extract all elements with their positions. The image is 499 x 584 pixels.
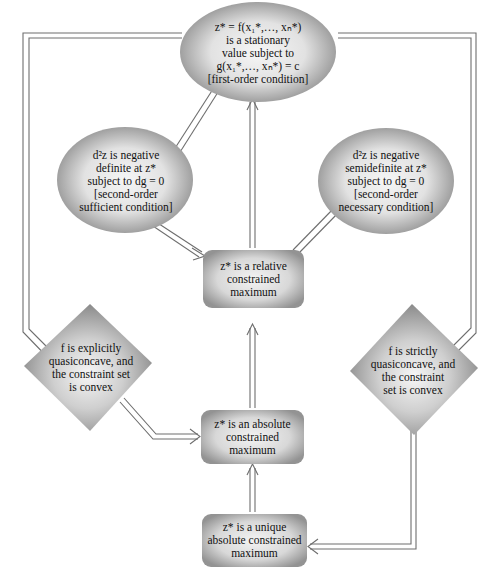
node-necessary-line-4: [second-order [354,188,418,201]
node-relative-max-line-3: maximum [230,286,277,299]
node-sufficient-line-4: [second-order [94,188,158,201]
node-sufficient-line-2: definite at z* [96,162,156,175]
node-absolute-max: z* is an absolute constrained maximum [201,411,304,463]
node-explicit-quasi-line-3: the constraint set [52,368,130,381]
node-absolute-max-line-2: constrained [226,431,279,444]
node-stationary-line-3: value subject to [222,47,294,60]
node-explicit-quasi-line-1: f is explicitly [61,342,122,355]
node-relative-max-line-2: constrained [227,273,280,286]
connector-absolute-to-relative [247,324,258,408]
node-sufficient: d²z is negative definite at z* subject t… [67,145,185,217]
node-explicit-quasi-line-2: quasiconcave, and [49,355,133,368]
node-strict-quasi-line-3: the constraint [382,371,444,384]
node-unique-max-line-1: z* is a unique [223,521,287,534]
connector-unique-to-absolute [247,464,258,512]
node-strict-quasi: f is strictly quasiconcave, and the cons… [357,343,469,399]
node-necessary-line-5: necessary condition] [339,201,434,214]
connector-relative-to-stationary [247,99,258,248]
node-sufficient-line-1: d²z is negative [93,149,160,162]
node-sufficient-line-5: sufficient condition] [79,201,172,214]
node-stationary-line-2: is a stationary [226,34,290,47]
node-necessary-line-1: d²z is negative [353,149,420,162]
node-stationary-line-4: g(x₁*,…, xₙ*) = c [217,60,300,73]
node-explicit-quasi-line-4: is convex [69,381,113,394]
node-stationary-line-5: [first-order condition] [208,73,309,86]
node-sufficient-line-3: subject to dg = 0 [88,175,165,188]
node-necessary-line-2: semidefinite at z* [345,162,427,175]
node-relative-max: z* is a relative constrained maximum [203,252,304,306]
node-strict-quasi-line-4: set is convex [383,384,442,397]
node-stationary: z* = f(x₁*,…, xₙ*) is a stationary value… [190,12,326,94]
connector-strict-to-unique [308,428,416,554]
node-absolute-max-line-1: z* is an absolute [214,418,290,431]
node-explicit-quasi: f is explicitly quasiconcave, and the co… [36,340,146,396]
node-relative-max-line-1: z* is a relative [220,260,287,273]
node-unique-max: z* is a unique absolute constrained maxi… [202,515,307,566]
node-absolute-max-line-3: maximum [229,444,276,457]
node-stationary-line-1: z* = f(x₁*,…, xₙ*) [215,21,302,34]
node-necessary: d²z is negative semidefinite at z* subje… [326,145,446,217]
node-strict-quasi-line-1: f is strictly [388,345,437,358]
node-unique-max-line-2: absolute constrained [207,534,301,547]
node-necessary-line-3: subject to dg = 0 [348,175,425,188]
node-strict-quasi-line-2: quasiconcave, and [371,358,455,371]
node-unique-max-line-3: maximum [231,547,278,560]
connector-explicit-to-absolute [120,398,200,444]
